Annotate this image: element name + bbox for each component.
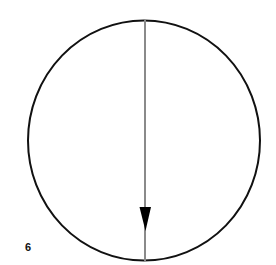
figure-label: 6 (25, 241, 31, 253)
circle-with-arrow-diagram (0, 0, 276, 265)
arrow-down-icon (140, 207, 152, 231)
